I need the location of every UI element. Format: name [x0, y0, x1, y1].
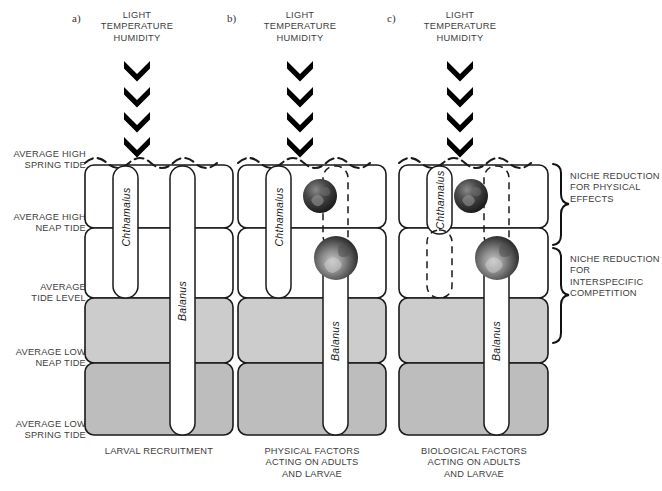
species-label-balanus-c: Balanus: [459, 331, 534, 351]
barnacle-photo-b-lower: [314, 236, 358, 280]
brace-label-physical-effects: NICHE REDUCTION FOR PHYSICAL EFFECTS: [570, 171, 662, 205]
caption-panel-c: BIOLOGICAL FACTORS ACTING ON ADULTS AND …: [384, 446, 564, 480]
brace-label-interspecific-competition: NICHE REDUCTION FOR INTERSPECIFIC COMPET…: [570, 254, 662, 300]
brace-physical-effects: [553, 164, 569, 245]
species-label-balanus-a: Balanus: [145, 291, 220, 311]
species-label-chthamalus-a: Chthamalus: [88, 207, 163, 227]
species-label-chthamalus-b: Chthamalus: [241, 207, 316, 227]
caption-panel-b: PHYSICAL FACTORS ACTING ON ADULTS AND LA…: [222, 446, 402, 480]
species-label-chthamalus-c: Chthamalus: [402, 190, 477, 210]
barnacle-photo-c-lower: [475, 236, 519, 280]
brace-interspecific-competition: [553, 248, 569, 343]
species-label-balanus-b: Balanus: [298, 331, 373, 351]
